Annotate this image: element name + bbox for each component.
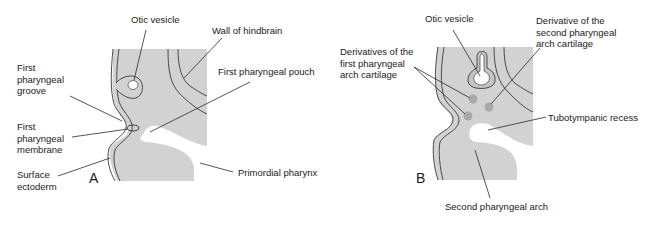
label-derivative-second-arch: Derivative of the second pharyngeal arch… bbox=[536, 15, 616, 50]
label-derivatives-first-arch: Derivatives of the first pharyngeal arch… bbox=[340, 46, 413, 81]
panel-letter-a: A bbox=[89, 170, 98, 186]
label-first-pharyngeal-membrane: First pharyngeal membrane bbox=[17, 121, 64, 156]
label-surface-ectoderm: Surface ectoderm bbox=[17, 169, 57, 192]
label-wall-of-hindbrain: Wall of hindbrain bbox=[212, 25, 282, 37]
label-first-pharyngeal-pouch: First pharyngeal pouch bbox=[218, 66, 315, 78]
label-primordial-pharynx: Primordial pharynx bbox=[238, 167, 317, 179]
panel-b-first-arch-cartilage-upper bbox=[469, 95, 478, 104]
panel-letter-b: B bbox=[416, 170, 425, 186]
label-otic-vesicle-b: Otic vesicle bbox=[425, 13, 474, 25]
panel-a-otic-vesicle-lumen bbox=[128, 81, 138, 90]
label-tubotympanic-recess: Tubotympanic recess bbox=[548, 112, 638, 124]
panel-b-drawing bbox=[433, 47, 533, 180]
panel-a-drawing bbox=[108, 49, 207, 181]
panel-b-second-arch-cartilage bbox=[485, 103, 494, 112]
label-first-pharyngeal-groove: First pharyngeal groove bbox=[17, 62, 64, 97]
panel-b-first-arch-cartilage-lower bbox=[464, 112, 473, 121]
label-second-pharyngeal-arch: Second pharyngeal arch bbox=[445, 201, 548, 213]
label-otic-vesicle-a: Otic vesicle bbox=[131, 14, 180, 26]
